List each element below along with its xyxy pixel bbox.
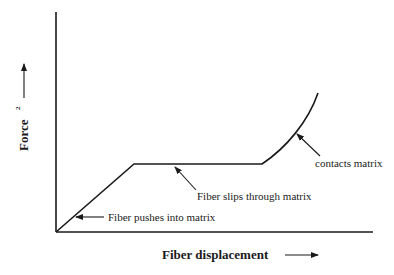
annotation-slips: Fiber slips through matrix xyxy=(175,167,312,202)
x-axis-title: Fiber displacement xyxy=(162,247,318,262)
annotation-pushes: Fiber pushes into matrix xyxy=(76,211,216,223)
annotation-contacts: contacts matrix xyxy=(297,134,383,169)
annotation-slips-label: Fiber slips through matrix xyxy=(197,190,312,202)
x-axis-label: Fiber displacement xyxy=(162,247,269,262)
annotation-contacts-label: contacts matrix xyxy=(315,157,383,169)
y-axis-label: Force xyxy=(16,119,31,151)
force-displacement-diagram: Fiber pushes into matrix Fiber slips thr… xyxy=(0,0,394,275)
annotation-pushes-label: Fiber pushes into matrix xyxy=(108,211,216,223)
y-axis-label-superscript: 2 xyxy=(14,106,22,110)
arrow-icon xyxy=(175,167,196,190)
arrow-icon xyxy=(297,134,320,156)
y-axis-title: Force 2 xyxy=(14,64,31,151)
